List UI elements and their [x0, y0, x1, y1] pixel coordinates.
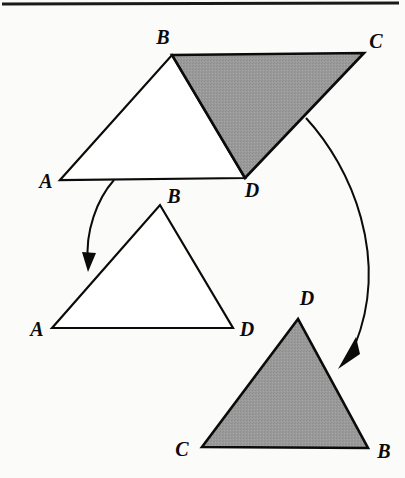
geometry-diagram: A B C D A B D D C B	[0, 0, 405, 478]
vertex-label-bot-b: B	[376, 440, 390, 462]
vertex-label-top-b: B	[155, 26, 169, 48]
move-arrow-unshaded-triangle	[88, 180, 114, 262]
move-arrow-shaded-triangle-head	[338, 337, 360, 369]
move-arrow-shaded-triangle	[306, 118, 369, 345]
move-arrow-unshaded-triangle-head	[82, 252, 96, 272]
triangle-abd-moved-unshaded	[52, 205, 233, 328]
vertex-label-top-a: A	[37, 170, 52, 192]
vertex-label-mid-d: D	[239, 318, 254, 340]
vertex-label-top-c: C	[369, 30, 383, 52]
vertex-label-bot-c: C	[175, 438, 189, 460]
top-horizontal-rule	[2, 3, 399, 4]
triangle-dcb-moved-shaded	[202, 319, 368, 448]
vertex-label-mid-a: A	[28, 318, 43, 340]
vertex-label-top-d: D	[244, 179, 259, 201]
vertex-label-bot-d: D	[299, 287, 314, 309]
figure-container: A B C D A B D D C B	[0, 0, 405, 478]
vertex-label-mid-b: B	[166, 185, 180, 207]
